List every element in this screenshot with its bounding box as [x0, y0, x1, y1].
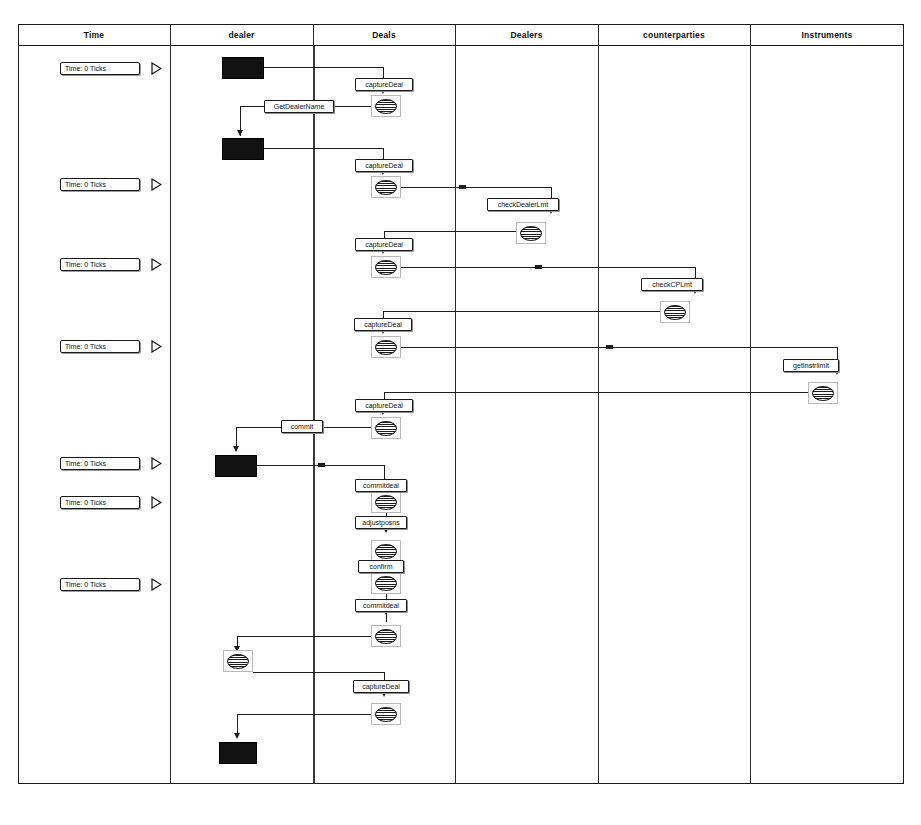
message-label-commit-deal-2[interactable]: commitdeal	[355, 599, 407, 612]
deals-object-4	[371, 336, 401, 358]
deals-object-8	[371, 572, 401, 594]
message-label-get-dealer-name[interactable]: GetDealerName	[264, 100, 334, 113]
object-disk-icon	[664, 305, 686, 320]
object-disk-icon	[375, 99, 397, 114]
time-marker-triangle-icon	[151, 340, 162, 352]
dealers-object-1	[516, 222, 546, 244]
deals-object-10	[371, 703, 401, 725]
time-marker-label: Time: 0 Ticks	[60, 258, 140, 271]
time-marker-label: Time: 0 Ticks	[60, 62, 140, 75]
column-header-counterparties: counterparties	[598, 24, 750, 46]
diagram-frame	[18, 24, 904, 784]
deals-object-3	[371, 256, 401, 278]
counterparties-object-1	[660, 301, 690, 323]
deals-object-5	[371, 417, 401, 439]
column-header-deals: Deals	[313, 24, 455, 46]
object-disk-icon	[375, 576, 397, 591]
column-header-dealer: dealer	[170, 24, 313, 46]
dealer-actor-3	[215, 455, 257, 477]
column-divider-dealer	[170, 24, 171, 784]
message-label-capture-deal-1[interactable]: captureDeal	[355, 78, 413, 91]
dealer-actor-2	[222, 138, 264, 160]
message-label-commit-deal-1[interactable]: commitdeal	[355, 479, 407, 492]
time-marker-triangle-icon	[151, 496, 162, 508]
time-marker-label: Time: 0 Ticks	[60, 178, 140, 191]
deals-object-7	[371, 540, 401, 562]
dealer-actor-1	[222, 57, 264, 79]
time-marker-label: Time: 0 Ticks	[60, 457, 140, 470]
message-label-commit[interactable]: commit	[281, 420, 323, 433]
time-marker-label: Time: 0 Ticks	[60, 496, 140, 509]
message-label-confirm[interactable]: confirm	[358, 560, 404, 573]
column-divider-instruments	[750, 24, 751, 784]
deals-object-1	[371, 95, 401, 117]
object-disk-icon	[375, 180, 397, 195]
time-marker-triangle-icon	[151, 258, 162, 270]
object-disk-icon	[375, 340, 397, 355]
message-label-adjust-posns[interactable]: adjustposns	[355, 516, 407, 529]
message-label-capture-deal-3[interactable]: captureDeal	[355, 238, 413, 251]
message-label-check-cp-lmt[interactable]: checkCPLmt	[641, 278, 703, 291]
deals-lifeline	[313, 46, 315, 784]
column-header-instruments: Instruments	[750, 24, 904, 46]
time-marker-triangle-icon	[151, 178, 162, 190]
time-marker-label: Time: 0 Ticks	[60, 340, 140, 353]
column-header-time: Time	[18, 24, 170, 46]
dealer-object-1	[223, 650, 253, 672]
object-disk-icon	[375, 495, 397, 510]
message-label-capture-deal-6[interactable]: captureDeal	[353, 680, 409, 693]
object-disk-icon	[227, 654, 249, 669]
message-label-check-dealer-lmt[interactable]: checkDealerLmt	[487, 198, 559, 211]
object-disk-icon	[520, 226, 542, 241]
deals-object-6	[371, 491, 401, 513]
time-marker-label: Time: 0 Ticks	[60, 578, 140, 591]
object-disk-icon	[812, 386, 834, 401]
column-divider-dealers	[455, 24, 456, 784]
message-label-capture-deal-2[interactable]: captureDeal	[355, 159, 413, 172]
sequence-diagram-canvas: TimedealerDealsDealerscounterpartiesInst…	[0, 0, 921, 825]
deals-object-9	[371, 625, 401, 647]
dealer-actor-4	[219, 742, 257, 764]
object-disk-icon	[375, 260, 397, 275]
time-marker-triangle-icon	[151, 62, 162, 74]
object-disk-icon	[375, 421, 397, 436]
message-label-get-instr-limit[interactable]: getInstrlimit	[783, 359, 839, 372]
time-marker-triangle-icon	[151, 457, 162, 469]
instruments-object-1	[808, 382, 838, 404]
deals-object-2	[371, 176, 401, 198]
column-header-dealers: Dealers	[455, 24, 598, 46]
object-disk-icon	[375, 629, 397, 644]
message-label-capture-deal-4[interactable]: captureDeal	[354, 318, 412, 331]
message-label-capture-deal-5[interactable]: captureDeal	[355, 399, 413, 412]
object-disk-icon	[375, 707, 397, 722]
object-disk-icon	[375, 544, 397, 559]
time-marker-triangle-icon	[151, 578, 162, 590]
column-divider-counterparties	[598, 24, 599, 784]
